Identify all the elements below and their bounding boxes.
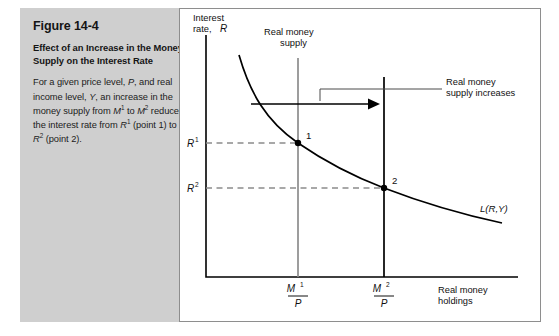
x-tick-m2-denominator: P [381, 298, 388, 309]
equilibrium-point-2 [381, 185, 387, 191]
y-tick-r2: R 2 [187, 181, 199, 194]
y-axis-label-line2: rate, [193, 24, 212, 34]
y-axis-label-variable: R [220, 23, 227, 34]
y-axis-label-line2-group: rate, R [193, 23, 227, 34]
annotation-leader-line [320, 89, 442, 101]
x-tick-m2-over-p: M 2 P [373, 281, 394, 309]
caption-text-block: Figure 14-4 Effect of an Increase in the… [33, 20, 185, 146]
figure-description: For a given price level, P, and real inc… [33, 75, 185, 146]
y-tick-r2-base: R [187, 183, 194, 194]
supply-shift-arrow-head [368, 99, 380, 110]
x-tick-m2-numerator: M [373, 283, 382, 294]
y-axis-label-line1: Interest [193, 13, 224, 23]
supply-annotation-line1: Real money [264, 27, 314, 37]
shift-annotation-line1: Real money [446, 77, 496, 87]
point-1-label: 1 [306, 130, 311, 141]
figure-title: Effect of an Increase in the Money Suppl… [33, 41, 185, 68]
supply-annotation-line2: supply [280, 38, 307, 48]
figure-root: Figure 14-4 Effect of an Increase in the… [0, 0, 559, 336]
y-tick-r2-superscript: 2 [195, 181, 199, 188]
x-tick-m1-superscript: 1 [300, 281, 304, 288]
equilibrium-point-1 [295, 140, 301, 146]
x-tick-m2-superscript: 2 [386, 281, 390, 288]
shift-annotation-line2: supply increases [446, 88, 516, 98]
money-market-chart: 1 2 Interest rate, R Real money holdings… [180, 9, 540, 321]
x-tick-m1-numerator: M [287, 283, 296, 294]
x-tick-m1-over-p: M 1 P [287, 281, 308, 309]
chart-axes [206, 35, 518, 277]
y-tick-r1: R 1 [187, 136, 199, 149]
y-tick-r1-base: R [187, 138, 194, 149]
x-tick-m1-denominator: P [295, 298, 302, 309]
y-tick-r1-superscript: 1 [195, 136, 199, 143]
chart-panel: 1 2 Interest rate, R Real money holdings… [179, 8, 541, 322]
demand-curve-label: L(R,Y) [480, 203, 508, 214]
x-axis-label-line1: Real money [438, 285, 488, 295]
point-2-label: 2 [392, 175, 397, 186]
figure-number: Figure 14-4 [33, 20, 185, 34]
x-axis-label-line2: holdings [438, 296, 473, 306]
